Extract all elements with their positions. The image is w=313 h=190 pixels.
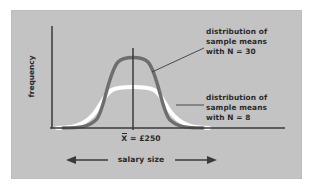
annotation-n30: distribution of sample means with N = 30	[206, 27, 267, 58]
x-bar-symbol: X	[121, 134, 127, 144]
annotation-n30-line3: with N = 30	[206, 47, 267, 57]
annotation-n8: distribution of sample means with N = 8	[206, 93, 267, 124]
annotation-n8-line2: sample means	[206, 103, 267, 113]
mean-value-text: = £250	[127, 134, 161, 143]
annotation-n8-line1: distribution of	[206, 93, 267, 103]
arrowhead-right	[207, 156, 217, 164]
annotation-n30-line1: distribution of	[206, 27, 267, 37]
arrowhead-left	[66, 156, 76, 164]
annotation-n8-line3: with N = 8	[206, 113, 267, 123]
mean-marker-label: X = £250	[108, 134, 174, 144]
leader-line-n30	[152, 48, 204, 72]
annotation-n30-line2: sample means	[206, 37, 267, 47]
x-axis-label: salary size	[110, 155, 172, 165]
figure-root: frequency distribution of sample means w…	[0, 0, 313, 190]
y-axis-label: frequency	[27, 45, 36, 109]
